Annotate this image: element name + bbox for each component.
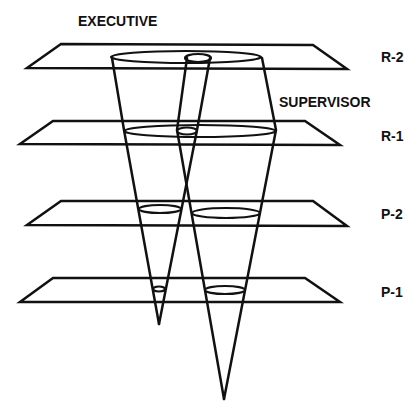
supervisor-cross-section-r2 <box>185 54 211 62</box>
plane-label-r2: R-2 <box>381 49 404 65</box>
executive-cross-section-p2 <box>139 205 181 213</box>
executive-cone-left-edge <box>112 58 159 324</box>
plane-p2 <box>27 201 347 226</box>
plane-label-p1: P-1 <box>381 284 403 300</box>
executive-cross-section-r1 <box>124 125 276 137</box>
supervisor-cross-section-p2 <box>192 208 260 218</box>
supervisor-cone-right-edge <box>224 58 276 399</box>
cone-plane-diagram: EXECUTIVE SUPERVISOR R-2 R-1 P-2 P-1 <box>0 0 418 415</box>
executive-cone-right-edge <box>159 58 210 324</box>
plane-label-r1: R-1 <box>381 128 404 144</box>
supervisor-cross-section-r1 <box>177 128 197 135</box>
supervisor-label: SUPERVISOR <box>279 94 371 110</box>
plane-p1 <box>20 278 340 302</box>
executive-label: EXECUTIVE <box>78 13 157 29</box>
supervisor-cross-section-p1 <box>205 286 245 294</box>
plane-label-p2: P-2 <box>381 206 403 222</box>
executive-cross-section-p1 <box>153 287 165 292</box>
